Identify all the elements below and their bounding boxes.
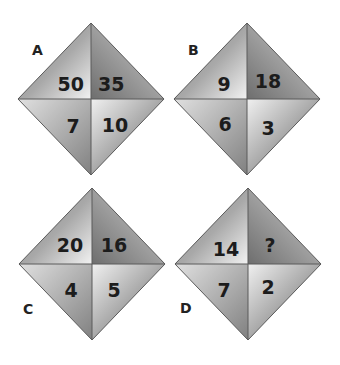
diamond-label: D (180, 300, 192, 316)
value-bottom-right: 2 (261, 276, 274, 298)
diamond-label: B (188, 42, 199, 58)
diamond-b: B 9 18 6 3 (174, 23, 320, 175)
value-top-left: 9 (217, 73, 230, 95)
puzzle-canvas: A 50 35 7 10 B 9 18 6 3 C 20 16 4 5 (0, 0, 340, 365)
value-top-right: 35 (98, 73, 124, 95)
value-bottom-right: 3 (261, 117, 274, 139)
value-top-right: 18 (255, 70, 281, 92)
diamond-d: D 14 ? 7 2 (175, 188, 321, 340)
value-bottom-left: 6 (218, 113, 231, 135)
value-bottom-left: 7 (66, 115, 79, 137)
value-top-right: 16 (101, 234, 127, 256)
diamond-a: A 50 35 7 10 (18, 23, 164, 175)
value-top-left: 14 (213, 238, 239, 260)
value-bottom-left: 4 (64, 279, 77, 301)
value-bottom-left: 7 (217, 279, 230, 301)
diamond-label: C (23, 301, 33, 317)
value-bottom-right: 10 (102, 114, 128, 136)
value-top-left: 20 (57, 234, 83, 256)
diamond-label: A (32, 42, 43, 58)
value-top-left: 50 (58, 73, 84, 95)
value-bottom-right: 5 (107, 279, 120, 301)
diamond-c: C 20 16 4 5 (19, 188, 165, 340)
value-top-right-unknown: ? (264, 234, 275, 256)
